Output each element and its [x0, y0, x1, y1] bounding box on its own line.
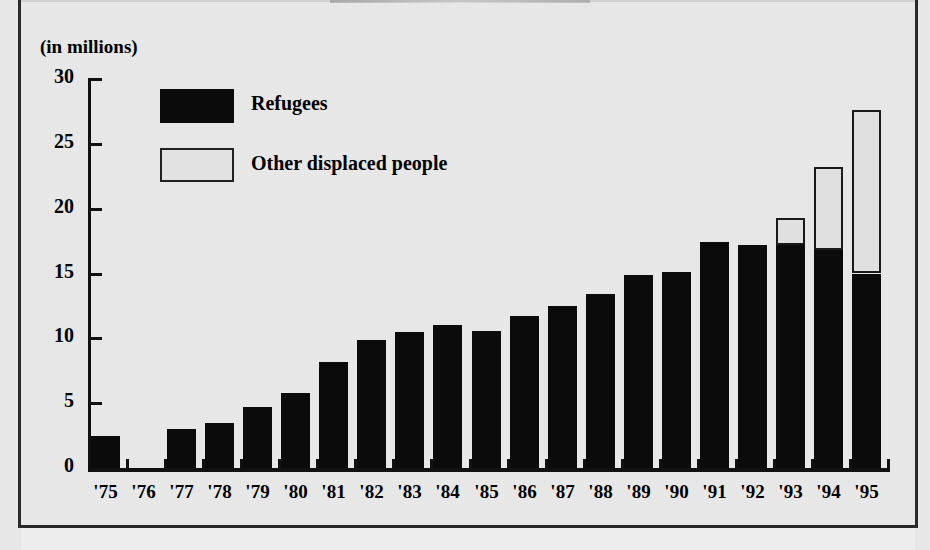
x-axis-tick [392, 459, 395, 468]
bar-segment-refugees [548, 306, 577, 468]
x-axis-tick [164, 459, 167, 468]
y-axis-tick-label: 5 [28, 389, 74, 412]
x-axis-tick-label: '91 [696, 481, 733, 503]
y-axis-tick [88, 208, 102, 211]
x-axis-tick [430, 459, 433, 468]
bar-segment-refugees [814, 250, 843, 468]
y-axis-tick [88, 402, 102, 405]
x-axis-tick-label: '90 [658, 481, 695, 503]
y-axis-tick-label: 15 [28, 260, 74, 283]
bar-segment-refugees [167, 429, 196, 468]
x-axis-tick-label: '77 [163, 481, 200, 503]
legend-label-refugees: Refugees [251, 92, 328, 115]
y-axis-tick-label: 0 [28, 454, 74, 477]
bar-segment-refugees [472, 331, 501, 468]
x-axis-tick-label: '75 [87, 481, 124, 503]
y-axis-tick-label: 10 [28, 324, 74, 347]
bar-segment-other-displaced [852, 110, 881, 273]
x-axis-tick-label: '88 [582, 481, 619, 503]
bar-segment-refugees [624, 275, 653, 468]
x-axis-tick-label: '83 [391, 481, 428, 503]
x-axis-tick-label: '79 [239, 481, 276, 503]
y-axis-tick [88, 143, 102, 146]
x-axis-tick [659, 459, 662, 468]
bar-segment-refugees [662, 272, 691, 468]
x-axis-tick-label: '78 [201, 481, 238, 503]
x-axis-tick [583, 459, 586, 468]
bar-segment-refugees [205, 423, 234, 468]
x-axis-tick-label: '86 [506, 481, 543, 503]
x-axis-tick [849, 459, 852, 468]
x-axis-tick [240, 459, 243, 468]
x-axis-tick-label: '85 [468, 481, 505, 503]
bar-segment-refugees [700, 242, 729, 468]
legend-swatch-refugees [160, 89, 234, 123]
x-axis-tick-label: '95 [848, 481, 885, 503]
bar-segment-other-displaced [814, 167, 843, 250]
bar-segment-refugees [852, 274, 881, 469]
y-axis-tick-label: 20 [28, 195, 74, 218]
x-axis-tick [202, 459, 205, 468]
x-axis-tick [811, 459, 814, 468]
x-axis-tick-label: '76 [125, 481, 162, 503]
legend-swatch-other-displaced [160, 148, 234, 182]
bar-segment-refugees [319, 362, 348, 468]
x-axis-tick [354, 459, 357, 468]
scanned-page: (in millions) 051015202530 '75'76'77'78'… [0, 0, 930, 550]
x-axis-tick-label: '93 [772, 481, 809, 503]
bar-segment-other-displaced [776, 218, 805, 245]
legend-label-other-displaced: Other displaced people [251, 152, 447, 175]
y-axis-tick [88, 337, 102, 340]
y-axis-tick [88, 273, 102, 276]
bar-segment-refugees [243, 407, 272, 468]
x-axis-tick [545, 459, 548, 468]
bar-segment-refugees [738, 245, 767, 468]
y-axis-tick-label: 30 [28, 65, 74, 88]
x-axis-tick-label: '80 [277, 481, 314, 503]
x-axis-tick-label: '89 [620, 481, 657, 503]
x-axis-tick-label: '84 [429, 481, 466, 503]
x-axis-tick [88, 459, 91, 468]
bar-segment-refugees [91, 436, 120, 468]
x-axis-tick-label: '82 [353, 481, 390, 503]
y-axis-tick-label: 25 [28, 130, 74, 153]
x-axis-tick [507, 459, 510, 468]
bar-segment-refugees [510, 316, 539, 468]
x-axis-tick-label: '92 [734, 481, 771, 503]
y-axis-tick [88, 78, 102, 81]
x-axis-tick [773, 459, 776, 468]
x-axis-tick-label: '81 [315, 481, 352, 503]
bar-segment-refugees [776, 245, 805, 468]
x-axis-tick [469, 459, 472, 468]
bar-segment-refugees [281, 393, 310, 468]
x-axis-tick [316, 459, 319, 468]
x-axis-tick [278, 459, 281, 468]
x-axis-tick [887, 459, 890, 468]
x-axis-tick [126, 459, 129, 468]
y-axis-caption: (in millions) [40, 36, 138, 58]
bar-segment-refugees [433, 325, 462, 468]
x-axis-tick-label: '94 [810, 481, 847, 503]
x-axis-tick [621, 459, 624, 468]
bar-chart: (in millions) 051015202530 '75'76'77'78'… [0, 0, 930, 550]
x-axis-tick [697, 459, 700, 468]
bar-segment-refugees [586, 294, 615, 468]
x-axis-tick-label: '87 [544, 481, 581, 503]
x-axis-tick [735, 459, 738, 468]
x-axis-line [88, 468, 890, 472]
bar-segment-refugees [357, 340, 386, 468]
bar-segment-refugees [395, 332, 424, 468]
